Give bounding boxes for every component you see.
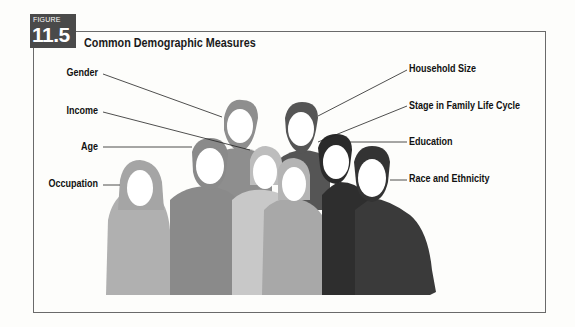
label-race-ethnicity: Race and Ethnicity bbox=[409, 173, 490, 184]
person-occupation bbox=[106, 160, 172, 295]
label-gender: Gender bbox=[66, 67, 98, 78]
label-age: Age bbox=[81, 141, 98, 152]
label-income: Income bbox=[66, 105, 98, 116]
person-race-ethnicity bbox=[354, 146, 436, 295]
people-illustration bbox=[0, 0, 575, 327]
label-occupation: Occupation bbox=[48, 178, 98, 189]
label-education: Education bbox=[409, 136, 453, 147]
label-household-size: Household Size bbox=[409, 63, 476, 74]
label-stage-family-life-cycle: Stage in Family Life Cycle bbox=[409, 100, 520, 111]
